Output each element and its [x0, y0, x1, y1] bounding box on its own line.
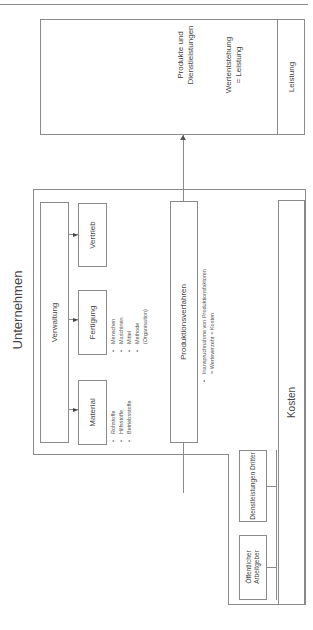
- value-creation-text: Wertentstehung: [224, 37, 234, 93]
- material-bullet: Betriebsstoffe: [126, 364, 134, 434]
- company-frame-right: [305, 189, 306, 605]
- page-rule: [0, 4, 308, 5]
- output-arrow-head: [180, 135, 186, 140]
- fertigung-label: Fertigung: [78, 290, 107, 355]
- leistung-label: Leistung: [278, 19, 305, 135]
- production-label: Produktionsverfahren: [170, 201, 198, 443]
- fertigung-bullet: Methode: [134, 274, 142, 344]
- fertigung-bullet: Maschinen: [118, 274, 126, 344]
- diagram-canvas: Produkte und Dienstleistungen Wertentste…: [0, 0, 313, 630]
- public-employer-label: Öffentlicher Arbeitgeber: [239, 540, 267, 594]
- material-bullet: Hilfsstoffe: [118, 364, 126, 434]
- third-party-services-label: Dienstleistungen Dritter: [239, 452, 267, 520]
- products-label: Produkte und Dienstleistungen: [168, 20, 204, 90]
- fertigung-bullet: Menschen: [110, 274, 118, 344]
- public-employer-tick: [267, 567, 276, 568]
- material-bullets: Rohstoffe Hilfsstoffe Betriebsstoffe: [110, 364, 134, 442]
- fertigung-arrow-head: [73, 318, 78, 322]
- third-party-tick: [267, 486, 276, 487]
- fertigung-bullet: Mittel: [126, 274, 134, 344]
- external-connector: [276, 450, 277, 600]
- fertigung-bullets: Menschen Maschinen Mittel Methode (Organ…: [110, 274, 150, 352]
- production-bullet: Inanspruchnahme von Produktionsfaktoren: [201, 234, 209, 374]
- company-frame-left-lower: [228, 454, 229, 605]
- costs-label: Kosten: [278, 200, 305, 605]
- company-frame-left-upper: [33, 190, 34, 455]
- administration-label: Verwaltung: [40, 202, 69, 443]
- vertrieb-arrow-head: [73, 233, 78, 237]
- material-arrow-head: [73, 408, 78, 412]
- company-title: Unternehmen: [8, 250, 28, 370]
- material-bullet: Rohstoffe: [110, 364, 118, 434]
- material-label: Material: [78, 380, 107, 445]
- vertrieb-label: Vertrieb: [78, 203, 107, 267]
- fertigung-bullet: (Organisation): [142, 274, 150, 344]
- output-arrow-shaft: [183, 135, 184, 190]
- company-frame-step: [33, 454, 229, 455]
- company-frame-top: [33, 189, 306, 190]
- value-creation-label: Wertentstehung = Leistung: [217, 35, 251, 95]
- production-bullets: Inanspruchnahme von Produktionsfaktoren …: [201, 234, 217, 382]
- value-equals-text: = Leistung: [234, 46, 244, 83]
- production-bullet: = Werteverzehr = Kosten: [209, 234, 217, 374]
